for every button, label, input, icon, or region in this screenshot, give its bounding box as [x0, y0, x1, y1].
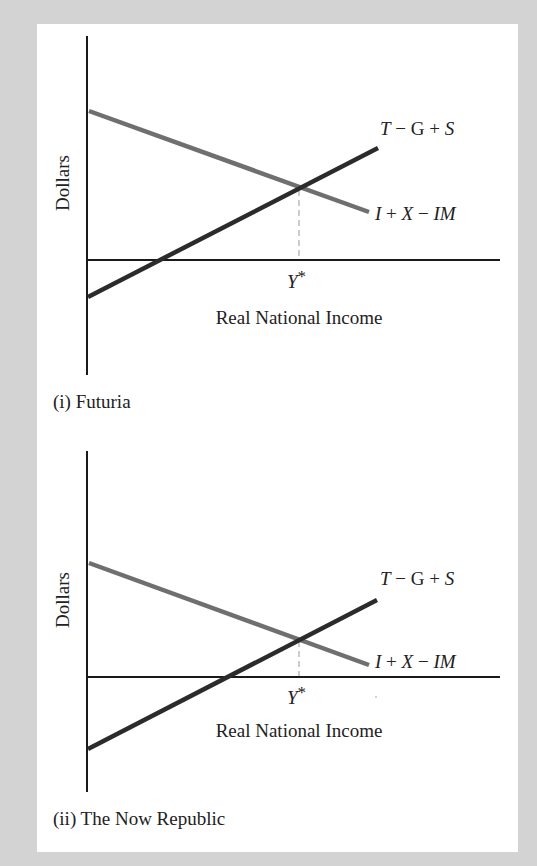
line-savings-budget [88, 148, 378, 297]
line-label-savings: T − G + S [380, 568, 455, 589]
chart-now-republic: Dollars T − G + S I + X − IM Y* Real Nat… [52, 451, 500, 830]
chart-caption: (i) Futuria [53, 391, 131, 413]
line-investment-net-exports [89, 111, 369, 212]
line-label-investment: I + X − IM [374, 651, 457, 672]
line-investment-net-exports [89, 563, 369, 665]
x-axis-label: Real National Income [216, 720, 383, 741]
y-axis-label: Dollars [52, 572, 73, 628]
y-axis-label: Dollars [52, 155, 73, 211]
stray-dot [375, 696, 377, 698]
chart-caption: (ii) The Now Republic [53, 808, 225, 830]
chart-futuria: Dollars T − G + S I + X − IM Y* Real Nat… [52, 36, 500, 413]
equilibrium-label: Y* [287, 683, 306, 708]
x-axis-label: Real National Income [216, 307, 383, 328]
figure-svg: Dollars T − G + S I + X − IM Y* Real Nat… [0, 0, 537, 866]
line-label-investment: I + X − IM [374, 203, 457, 224]
line-label-savings: T − G + S [380, 118, 455, 139]
equilibrium-label: Y* [287, 267, 306, 292]
